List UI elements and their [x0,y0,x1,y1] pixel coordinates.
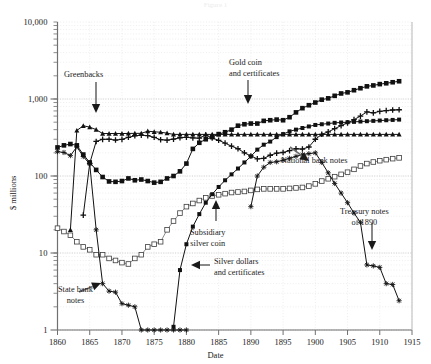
y-tick-label: 10 [0,248,48,258]
annotation-line: National bank notes [281,156,347,167]
annotation-line: and certificates [229,69,279,80]
x-tick-label: 1885 [201,337,237,347]
y-tick-label: 1 [0,325,48,335]
annotation-subsidiary-silver-coin: Subsidiarysilver coin [190,228,226,249]
annotation-line: Greenbacks [64,70,103,81]
annotation-treasury-notes: Treasury notesof 1890 [340,207,389,228]
arrow-silver-dollars [191,261,210,269]
annotation-line: Treasury notes [340,207,389,218]
annotation-gold-coin: Gold coinand certificates [229,58,279,79]
annotation-line: Silver dollars [214,257,264,268]
x-tick-label: 1900 [297,337,333,347]
y-tick-label: 10,000 [0,17,48,27]
annotation-line: Gold coin [229,58,279,69]
x-tick-label: 1875 [136,337,172,347]
annotation-line: of 1890 [340,218,389,229]
x-tick-label: 1905 [330,337,366,347]
annotation-state-bank-notes: State banknotes [58,285,93,306]
arrow-greenbacks [92,82,100,113]
x-tick-label: 1915 [394,337,430,347]
annotation-silver-dollars: Silver dollarsand certificates [214,257,264,278]
annotation-line: notes [58,296,93,307]
annotation-greenbacks: Greenbacks [64,70,103,81]
y-tick-label: 1,000 [0,94,48,104]
chart-canvas [0,0,431,364]
x-tick-label: 1890 [233,337,269,347]
annotation-line: State bank [58,285,93,296]
x-tick-label: 1910 [362,337,398,347]
x-tick-label: 1860 [40,337,76,347]
y-axis-title: $ millions [8,176,18,210]
x-tick-label: 1895 [265,337,301,347]
annotation-national-bank-notes: National bank notes [281,156,347,167]
x-tick-label: 1865 [72,337,108,347]
annotation-line: silver coin [190,239,226,250]
annotation-line: Subsidiary [190,228,226,239]
annotation-line: and certificates [214,268,264,279]
x-axis-title: Date [0,350,431,360]
series-gold-coin-and-certificates [55,79,401,185]
chart-figure: Figure 1 1101001,00010,000 1860186518701… [0,0,431,364]
x-tick-label: 1870 [104,337,140,347]
x-tick-label: 1880 [168,337,204,347]
